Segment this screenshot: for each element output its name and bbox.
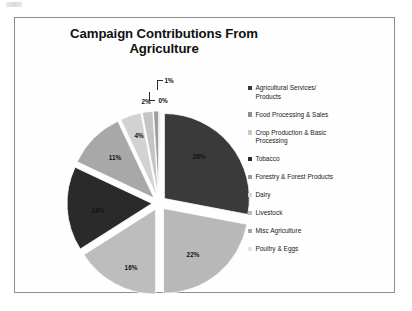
legend-item-label: Dairy: [255, 191, 270, 200]
leader-line-horizontal-1pct: [157, 80, 163, 81]
legend-item-label: Livestock: [255, 209, 282, 218]
legend-item-crop-production[interactable]: Crop Production & Basic Processing: [248, 129, 390, 146]
slice-label-crop-production: 16%: [125, 264, 138, 271]
pie-slice[interactable]: [164, 114, 249, 215]
legend-item-label: Agricultural Services/ Products: [255, 84, 316, 101]
legend-item-label: Poultry & Eggs: [255, 245, 298, 254]
legend-item-poultry-eggs[interactable]: Poultry & Eggs: [248, 245, 390, 254]
leader-line-vertical-1pct: [157, 80, 158, 90]
slice-label-agricultural-services: 28%: [193, 153, 206, 160]
slice-label-food-processing: 22%: [187, 251, 200, 258]
legend-swatch-icon: [248, 157, 252, 161]
legend-swatch-icon: [248, 175, 252, 179]
scan-artifact: [6, 2, 22, 7]
legend-swatch-icon: [248, 193, 252, 197]
legend-item-label: Forestry & Forest Products: [255, 173, 333, 182]
legend-item-label: Food Processing & Sales: [255, 111, 328, 120]
legend-item-food-processing[interactable]: Food Processing & Sales: [248, 111, 390, 120]
pie-slice[interactable]: [159, 111, 161, 196]
slice-label-livestock: 2%: [141, 98, 150, 105]
pie-slice[interactable]: [163, 208, 246, 293]
slice-label-forestry: 11%: [109, 154, 121, 161]
slice-label-tobacco: 16%: [92, 207, 105, 214]
slice-label-misc-agriculture: 1%: [164, 77, 173, 84]
slice-label-dairy: 4%: [134, 132, 143, 139]
legend-swatch-icon: [248, 86, 252, 90]
legend-item-agricultural-services[interactable]: Agricultural Services/ Products: [248, 84, 390, 101]
legend-item-dairy[interactable]: Dairy: [248, 191, 390, 200]
slide-canvas: Campaign Contributions From Agriculture …: [14, 17, 395, 293]
slice-label-poultry-eggs: 0%: [158, 97, 167, 104]
legend-swatch-icon: [248, 112, 252, 116]
legend-swatch-icon: [248, 229, 252, 233]
legend-swatch-icon: [248, 211, 252, 215]
legend-item-forestry[interactable]: Forestry & Forest Products: [248, 173, 390, 182]
chart-legend: Agricultural Services/ Products Food Pro…: [248, 84, 390, 263]
legend-item-livestock[interactable]: Livestock: [248, 209, 390, 218]
legend-item-misc-agriculture[interactable]: Misc Agriculture: [248, 227, 390, 236]
legend-item-label: Crop Production & Basic Processing: [255, 129, 326, 146]
legend-swatch-icon: [248, 247, 252, 251]
legend-swatch-icon: [248, 130, 252, 134]
legend-item-label: Misc Agriculture: [255, 227, 301, 236]
legend-item-label: Tobacco: [255, 155, 279, 164]
legend-item-tobacco[interactable]: Tobacco: [248, 155, 390, 164]
